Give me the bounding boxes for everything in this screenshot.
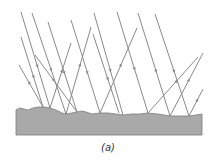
- incident-ray: [48, 22, 77, 112]
- figure-caption: (a): [0, 142, 216, 153]
- incident-ray: [155, 14, 189, 116]
- diffuse-reflection-diagram: [0, 0, 216, 162]
- arrowhead-icon: [172, 70, 175, 74]
- incident-ray: [138, 13, 170, 116]
- incident-ray: [94, 13, 123, 115]
- incident-ray: [93, 34, 119, 113]
- light-rays: [19, 12, 203, 116]
- arrowhead-icon: [49, 68, 52, 72]
- reflected-ray: [189, 89, 203, 116]
- reflected-ray: [170, 53, 203, 116]
- rough-surface: [16, 107, 202, 135]
- reflected-ray: [148, 57, 198, 113]
- caption-label: (a): [101, 142, 115, 153]
- incident-ray: [71, 20, 100, 113]
- arrowhead-icon: [106, 77, 109, 81]
